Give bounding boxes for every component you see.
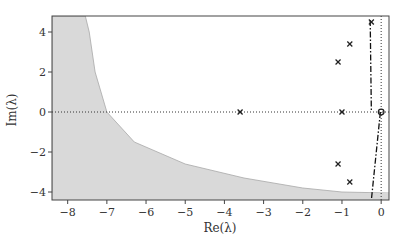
x-marker bbox=[336, 162, 341, 167]
x-tick-label: −6 bbox=[138, 206, 154, 219]
x-tick-label: −1 bbox=[334, 206, 350, 219]
dash-dot-line bbox=[371, 112, 380, 200]
y-axis-label: Im(λ) bbox=[5, 93, 19, 126]
x-tick-label: −4 bbox=[216, 206, 232, 219]
x-tick-label: −8 bbox=[60, 206, 76, 219]
x-axis-label: Re(λ) bbox=[203, 221, 236, 235]
x-tick-label: 0 bbox=[378, 206, 385, 219]
y-tick-label: −4 bbox=[30, 186, 46, 199]
y-tick-label: −2 bbox=[30, 146, 46, 159]
eigenvalue-markers bbox=[238, 20, 384, 185]
y-tick-label: 4 bbox=[39, 26, 46, 39]
y-axis-ticks: −4−2024 bbox=[30, 26, 52, 199]
x-tick-label: −2 bbox=[295, 206, 311, 219]
x-axis-ticks: −8−7−6−5−4−3−2−10 bbox=[60, 200, 385, 219]
eigenvalue-plot: −8−7−6−5−4−3−2−10 −4−2024 Re(λ) Im(λ) bbox=[0, 0, 407, 242]
shaded-region bbox=[52, 16, 389, 200]
x-tick-label: −5 bbox=[177, 206, 193, 219]
y-tick-label: 2 bbox=[39, 66, 46, 79]
x-tick-label: −7 bbox=[99, 206, 115, 219]
x-marker bbox=[347, 42, 352, 47]
x-tick-label: −3 bbox=[255, 206, 271, 219]
x-marker bbox=[336, 60, 341, 65]
dash-dot-line bbox=[370, 20, 371, 112]
y-tick-label: 0 bbox=[39, 106, 46, 119]
x-marker bbox=[347, 180, 352, 185]
shaded-bottom-band bbox=[52, 193, 389, 200]
plot-area bbox=[52, 16, 389, 200]
